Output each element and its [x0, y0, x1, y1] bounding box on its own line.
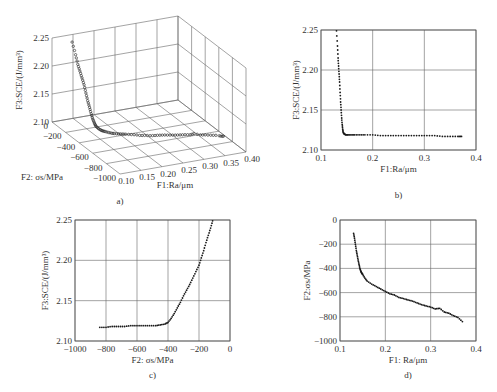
- data-point: [185, 291, 187, 293]
- x-tick-label: 0: [228, 344, 233, 354]
- data-point: [413, 301, 415, 303]
- data-point: [202, 252, 204, 254]
- data-point: [199, 262, 201, 264]
- data-point: [204, 134, 206, 136]
- data-point: [200, 257, 202, 259]
- data-point: [207, 134, 209, 136]
- data-point: [151, 134, 153, 136]
- z-tick-label: 2.25: [33, 33, 49, 43]
- x-tick-label: 0.3: [419, 153, 431, 163]
- data-point: [187, 287, 189, 289]
- data-point: [413, 135, 415, 137]
- data-point: [444, 136, 446, 138]
- y-tick-label: −600: [318, 288, 337, 298]
- data-point: [354, 134, 356, 136]
- data-point: [434, 135, 436, 137]
- data-point: [400, 297, 402, 299]
- data-point: [74, 54, 76, 56]
- floor-grid-line: [136, 107, 204, 159]
- data-point: [339, 92, 341, 94]
- data-point: [179, 134, 181, 136]
- data-point: [132, 325, 134, 327]
- data-point: [454, 136, 456, 138]
- data-point: [338, 76, 340, 78]
- panel-label: c): [149, 370, 156, 380]
- data-point: [205, 242, 207, 244]
- y-tick-label: −800: [84, 163, 103, 173]
- data-point: [99, 326, 101, 328]
- panel-label: d): [404, 370, 412, 380]
- data-point: [353, 234, 355, 236]
- data-point: [181, 134, 183, 136]
- data-point: [192, 277, 194, 279]
- data-point: [341, 117, 343, 119]
- y-tick-label: −1000: [93, 173, 117, 183]
- data-point: [201, 255, 203, 257]
- data-point: [356, 254, 358, 256]
- data-point: [113, 326, 115, 328]
- floor-grid-line: [94, 115, 162, 167]
- side-wall-grid-line: [178, 100, 246, 152]
- data-point: [179, 303, 181, 305]
- data-point: [164, 134, 166, 136]
- data-point: [362, 134, 364, 136]
- data-point: [134, 325, 136, 327]
- data-point: [447, 136, 449, 138]
- data-point: [336, 40, 338, 42]
- pareto-figure: 2.252.202.152.100−200−400−600−800−10000.…: [0, 0, 497, 392]
- data-point: [364, 134, 366, 136]
- data-point: [369, 134, 371, 136]
- plot-frame: [321, 30, 476, 150]
- y-tick-label: −200: [43, 131, 62, 141]
- x-tick-label: 0.2: [380, 344, 391, 354]
- data-point: [196, 269, 198, 271]
- data-point: [439, 307, 441, 309]
- x-tick-label: 0.15: [139, 172, 155, 182]
- x-tick-label: −200: [190, 344, 209, 354]
- data-point: [173, 313, 175, 315]
- data-point: [140, 325, 142, 327]
- data-point: [159, 324, 161, 326]
- data-point: [133, 134, 135, 136]
- y-tick-label: 2.25: [302, 25, 318, 35]
- data-point: [177, 305, 179, 307]
- data-point: [195, 271, 197, 273]
- data-point: [122, 326, 124, 328]
- data-point: [353, 232, 355, 234]
- figure-canvas: 2.252.202.152.100−200−400−600−800−10000.…: [0, 0, 497, 392]
- data-point: [339, 81, 341, 83]
- data-point: [368, 281, 370, 283]
- data-point: [337, 57, 339, 59]
- data-point: [372, 134, 374, 136]
- data-point: [204, 244, 206, 246]
- data-point: [144, 325, 146, 327]
- data-point: [166, 134, 168, 136]
- data-point: [186, 289, 188, 291]
- data-point: [355, 249, 357, 251]
- data-point: [403, 135, 405, 137]
- panel-b-ra-vs-sce: 0.10.20.30.42.102.152.202.25F1:Ra/μmF3:S…: [291, 25, 482, 200]
- data-point: [338, 62, 340, 64]
- data-point: [193, 275, 195, 277]
- data-point: [341, 114, 343, 116]
- data-point: [460, 319, 462, 321]
- data-point: [158, 324, 160, 326]
- data-point: [86, 97, 88, 99]
- data-point: [190, 282, 192, 284]
- x-tick-label: 0.40: [244, 154, 260, 164]
- data-point: [340, 106, 342, 108]
- x-axis-label: F1:Ra/μm: [157, 180, 193, 190]
- data-point: [336, 35, 338, 37]
- data-point: [184, 134, 186, 136]
- data-point: [153, 325, 155, 327]
- x-axis-label: F1:Ra/μm: [380, 164, 416, 174]
- data-point: [385, 135, 387, 137]
- data-point: [400, 135, 402, 137]
- data-point: [188, 286, 190, 288]
- y-tick-label: 2.25: [56, 215, 72, 225]
- data-point: [183, 295, 185, 297]
- data-point: [120, 326, 122, 328]
- data-point: [369, 282, 371, 284]
- x-tick-label: −800: [97, 344, 116, 354]
- data-point: [176, 307, 178, 309]
